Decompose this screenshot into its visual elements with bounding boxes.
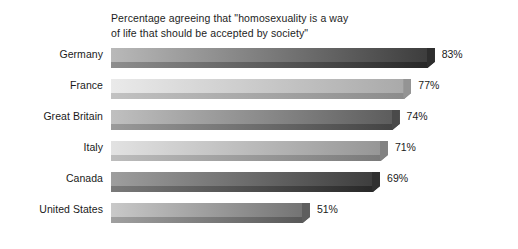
category-label-canada: Canada xyxy=(0,169,103,188)
chart-title: Percentage agreeing that "homosexuality … xyxy=(111,11,441,40)
bar-row: Canada69% xyxy=(0,169,518,200)
value-label: 69% xyxy=(387,171,408,185)
category-label-france: France xyxy=(0,76,103,95)
bar-end-cap xyxy=(403,79,411,99)
bar-end-cap xyxy=(392,110,400,130)
bar-face xyxy=(111,48,435,62)
category-label-italy: Italy xyxy=(0,138,103,157)
bar-bottom-bevel xyxy=(111,217,310,223)
bar-row: Great Britain74% xyxy=(0,107,518,138)
category-label-germany: Germany xyxy=(0,45,103,64)
bar-bottom-bevel xyxy=(111,124,400,130)
category-label-great-britain: Great Britain xyxy=(0,107,103,126)
bar-face xyxy=(111,79,411,93)
bar-end-cap xyxy=(380,141,388,161)
bar-germany xyxy=(111,48,435,69)
bar-canada xyxy=(111,172,380,193)
bar-face xyxy=(111,203,310,217)
bar-row: United States51% xyxy=(0,200,518,231)
bar-face xyxy=(111,110,400,124)
value-label: 51% xyxy=(317,202,338,216)
bar-row: Germany83% xyxy=(0,45,518,76)
category-label-united-states: United States xyxy=(0,200,103,219)
value-label: 83% xyxy=(442,47,463,61)
bar-end-cap xyxy=(372,172,380,192)
bar-face xyxy=(111,172,380,186)
bar-end-cap xyxy=(302,203,310,223)
value-label: 77% xyxy=(418,78,439,92)
bar-bottom-bevel xyxy=(111,62,435,68)
bar-row: France77% xyxy=(0,76,518,107)
bar-united-states xyxy=(111,203,310,224)
bar-row: Italy71% xyxy=(0,138,518,169)
bar-bottom-bevel xyxy=(111,155,388,161)
bar-great-britain xyxy=(111,110,400,131)
bar-face xyxy=(111,141,388,155)
bar-chart: Percentage agreeing that "homosexuality … xyxy=(0,0,518,249)
value-label: 74% xyxy=(407,109,428,123)
value-label: 71% xyxy=(395,140,416,154)
bar-bottom-bevel xyxy=(111,93,411,99)
bar-france xyxy=(111,79,411,100)
bar-bottom-bevel xyxy=(111,186,380,192)
bar-end-cap xyxy=(427,48,435,68)
bar-italy xyxy=(111,141,388,162)
plot-area: Germany83%France77%Great Britain74%Italy… xyxy=(0,45,518,245)
